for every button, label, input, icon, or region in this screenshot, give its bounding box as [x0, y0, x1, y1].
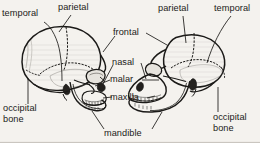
- label-left-parietal: parietal: [58, 2, 89, 13]
- label-right-temporal: temporal: [214, 3, 250, 14]
- leader-right-parietal: [183, 16, 186, 43]
- label-left-occipital-bone: occipital bone: [3, 103, 37, 124]
- label-left-temporal: temporal: [2, 8, 38, 19]
- human-orbit: [86, 69, 105, 84]
- ape-auditory-meatus: [189, 79, 196, 90]
- label-right-occipital-bone: occipital bone: [213, 112, 247, 133]
- leader-frontal-human: [103, 36, 115, 52]
- leader-left-parietal: [59, 15, 71, 32]
- label-nasal: nasal: [112, 57, 134, 68]
- leader-frontal-ape: [146, 33, 167, 45]
- leader-mandible-human: [92, 111, 104, 129]
- label-right-parietal: parietal: [158, 3, 189, 14]
- ape-nasal-aperture: [136, 82, 143, 91]
- ape-lower-teeth: [135, 103, 151, 110]
- lambdoid-suture: [26, 70, 41, 76]
- coronal-suture: [64, 27, 68, 71]
- label-malar: malar: [110, 74, 133, 85]
- skull-comparison-figure: temporal parietal occipital bone frontal…: [0, 0, 260, 143]
- label-frontal: frontal: [113, 27, 139, 38]
- leader-mandible-ape: [152, 112, 162, 129]
- ape-cranium-shading: [160, 42, 232, 77]
- label-mandible: mandible: [104, 128, 142, 139]
- human-skull-drawing: [20, 27, 106, 111]
- label-maxilla: maxilla: [110, 92, 139, 103]
- human-auditory-meatus: [63, 84, 70, 95]
